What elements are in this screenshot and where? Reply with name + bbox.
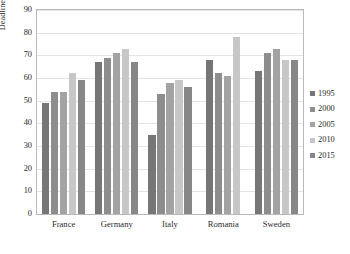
bar (184, 87, 191, 214)
bar (42, 103, 49, 214)
bar (264, 53, 271, 214)
bar (233, 37, 240, 214)
bar (273, 49, 280, 214)
bar (175, 80, 182, 214)
x-axis-tick-label: Italy (143, 219, 196, 229)
legend-item: 1995 (310, 86, 335, 102)
bar (122, 49, 129, 214)
bar-chart: Deadline pressure 0102030405060708090 Fr… (0, 0, 350, 254)
bar (166, 83, 173, 214)
legend-item: 2010 (310, 133, 335, 149)
legend-label: 2010 (318, 136, 335, 144)
bar (113, 53, 120, 214)
y-axis-tick-label: 0 (8, 210, 32, 218)
legend-item: 2000 (310, 102, 335, 118)
bar (255, 71, 262, 214)
x-axis-tick-label: Romania (197, 219, 250, 229)
chart-legend: 19952000200520102015 (310, 86, 335, 164)
y-axis-tick-label: 60 (8, 74, 32, 82)
x-axis-tick-label: France (37, 219, 90, 229)
legend-item: 2005 (310, 117, 335, 133)
legend-swatch-icon (310, 122, 315, 127)
bar-groups (37, 10, 303, 214)
legend-swatch-icon (310, 138, 315, 143)
bar (148, 135, 155, 214)
bar (157, 94, 164, 214)
bar-group (90, 10, 143, 214)
y-axis-tick-label: 10 (8, 187, 32, 195)
y-axis-tick-label: 20 (8, 165, 32, 173)
bar (78, 80, 85, 214)
legend-label: 2015 (318, 152, 335, 160)
bar (95, 62, 102, 214)
bar (282, 60, 289, 214)
x-axis-tick-label: Germany (90, 219, 143, 229)
y-axis-tick-label: 90 (8, 6, 32, 14)
bar (215, 73, 222, 214)
y-axis-tick-label: 30 (8, 142, 32, 150)
bar (51, 92, 58, 214)
bar-group (143, 10, 196, 214)
legend-item: 2015 (310, 148, 335, 164)
bar (206, 60, 213, 214)
legend-label: 2000 (318, 105, 335, 113)
legend-swatch-icon (310, 107, 315, 112)
y-axis-tick-label: 70 (8, 51, 32, 59)
bar (69, 73, 76, 214)
legend-swatch-icon (310, 153, 315, 158)
legend-label: 2005 (318, 121, 335, 129)
y-axis-tick-label: 50 (8, 97, 32, 105)
legend-swatch-icon (310, 91, 315, 96)
y-axis-tick-label: 80 (8, 29, 32, 37)
bar (224, 76, 231, 214)
bar (104, 58, 111, 214)
bar-group (197, 10, 250, 214)
bar (60, 92, 67, 214)
y-axis-title: Deadline pressure (0, 0, 7, 60)
bar-group (250, 10, 303, 214)
bar (131, 62, 138, 214)
bar (291, 60, 298, 214)
x-axis-tick-label: Sweden (250, 219, 303, 229)
bar-group (37, 10, 90, 214)
y-axis-tick-label: 40 (8, 119, 32, 127)
legend-label: 1995 (318, 90, 335, 98)
